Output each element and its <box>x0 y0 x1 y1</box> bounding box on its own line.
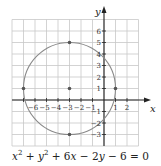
point-marker <box>68 87 72 91</box>
y-tick-label: 3 <box>97 62 101 70</box>
y-tick-label: −1 <box>91 108 101 116</box>
x-tick-label: −5 <box>39 104 49 112</box>
coordinate-plane: −6−5−4−3−2−112 654321−1−2−3 x y <box>0 0 161 148</box>
grid <box>12 20 139 147</box>
x-axis-arrow-icon <box>144 98 151 103</box>
y-tick-label: 2 <box>97 74 101 82</box>
x-axis-label: x <box>150 103 156 114</box>
y-axis-arrow-icon <box>102 6 107 13</box>
y-tick-label: 6 <box>97 28 102 36</box>
x-tick-label: −2 <box>74 104 84 112</box>
y-tick-label: 1 <box>97 85 101 93</box>
x-tick-label: −3 <box>62 104 72 112</box>
y-tick-label: 4 <box>97 51 102 59</box>
point-marker <box>68 41 72 45</box>
axes <box>12 6 151 146</box>
x-tick-label: −6 <box>28 104 39 112</box>
y-tick-label: −3 <box>91 131 101 139</box>
point-marker <box>114 87 118 91</box>
x-tick-label: 2 <box>125 104 129 112</box>
x-tick-labels: −6−5−4−3−2−112 <box>28 104 129 112</box>
y-tick-label: 5 <box>97 39 101 47</box>
x-tick-label: −4 <box>51 104 62 112</box>
circle-equation: x2 + y2 + 6x − 2y − 6 = 0 <box>0 149 161 162</box>
y-axis-label: y <box>94 6 101 17</box>
y-tick-label: −2 <box>91 120 101 128</box>
point-marker <box>68 133 72 137</box>
point-marker <box>22 87 26 91</box>
x-tick-label: 1 <box>113 104 117 112</box>
